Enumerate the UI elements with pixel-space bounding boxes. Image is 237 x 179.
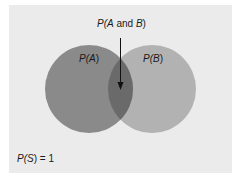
label-p-a: P(A) [79, 54, 99, 64]
fn: P( [97, 18, 107, 29]
var-b: B [153, 53, 160, 64]
fn: P( [79, 53, 89, 64]
fn: P( [17, 153, 27, 164]
var-a: A [107, 18, 114, 29]
close-paren: ) [160, 53, 163, 64]
close-paren: ) [143, 18, 146, 29]
var-s: S [27, 153, 34, 164]
close-paren: ) [96, 53, 99, 64]
equals-one: ) = 1 [34, 153, 54, 164]
label-p-a-and-b: P(A and B) [97, 19, 146, 29]
label-p-s: P(S) = 1 [17, 154, 54, 164]
var-a: A [89, 53, 96, 64]
and-text: and [114, 18, 136, 29]
var-b: B [136, 18, 143, 29]
fn: P( [143, 53, 153, 64]
label-p-b: P(B) [143, 54, 163, 64]
